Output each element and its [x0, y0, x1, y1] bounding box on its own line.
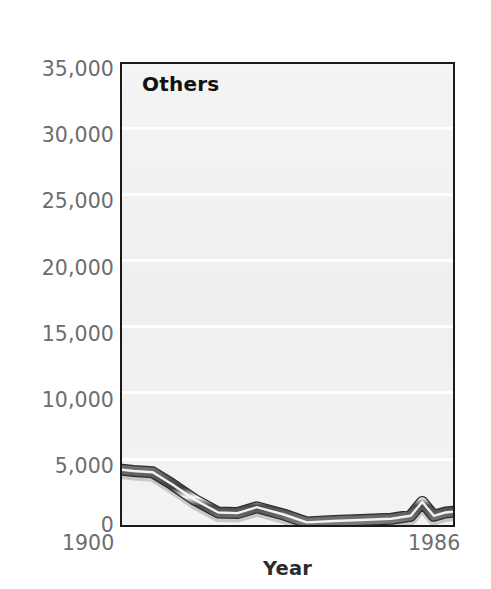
y-tick-label-10000: 10,000	[2, 388, 114, 412]
y-axis-tick-labels: 35,000 30,000 25,000 20,000 15,000 10,00…	[0, 0, 114, 589]
y-tick-label-20000: 20,000	[2, 256, 114, 280]
y-tick-label-5000: 5,000	[2, 454, 114, 478]
series-others	[122, 64, 453, 525]
y-tick-label-30000: 30,000	[2, 123, 114, 147]
y-tick-label-25000: 25,000	[2, 189, 114, 213]
x-axis-title: Year	[120, 557, 455, 580]
chart-figure: 35,000 30,000 25,000 20,000 15,000 10,00…	[0, 0, 491, 589]
y-tick-label-15000: 15,000	[2, 322, 114, 346]
plot-area: Others	[120, 62, 455, 527]
x-tick-label-start: 1900	[62, 531, 114, 555]
y-tick-label-35000: 35,000	[2, 57, 114, 81]
x-tick-label-end: 1986	[408, 531, 460, 555]
